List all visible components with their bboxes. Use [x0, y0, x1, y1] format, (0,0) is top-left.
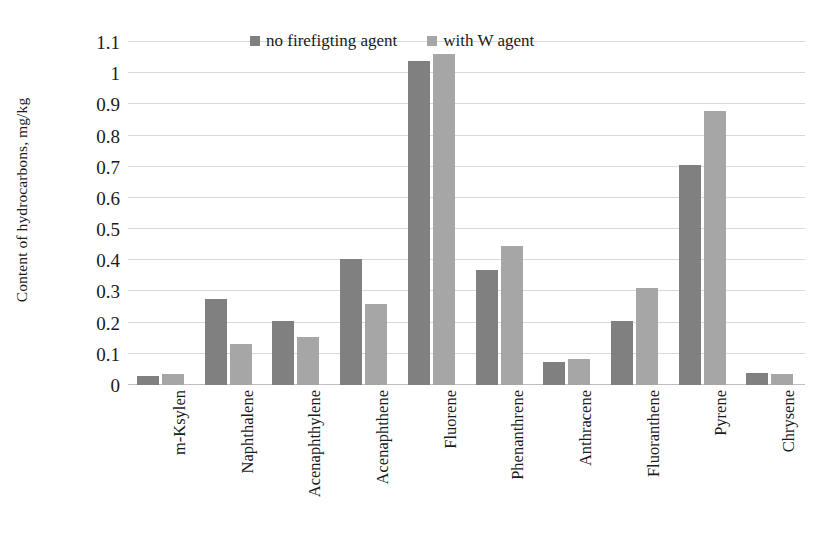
legend-swatch-icon: [427, 36, 437, 46]
y-axis-tick-label: 0.2: [58, 313, 120, 332]
y-axis-tick-label: 0.4: [58, 251, 120, 270]
x-axis-category-label: Acenaphthylene: [305, 390, 325, 550]
gridline: [128, 135, 805, 136]
y-axis-tick-label: 0.3: [58, 282, 120, 301]
y-axis-tick-label: 0.6: [58, 188, 120, 207]
x-axis-category-labels: m-KsylenNaphthaleneAcenaphthyleneAcenaph…: [128, 390, 805, 555]
y-axis-tick-label: 1: [58, 64, 120, 83]
x-axis-category-label: Fluorene: [441, 390, 461, 550]
bar-chart: Content of hydrocarbons, mg/kg 00.10.20.…: [0, 0, 837, 560]
gridline: [128, 290, 805, 291]
gridline: [128, 72, 805, 73]
plot-area: [128, 42, 805, 385]
x-axis-category-label: Chrysene: [779, 390, 799, 550]
legend-item[interactable]: with W agent: [427, 31, 534, 51]
gridline: [128, 166, 805, 167]
gridline: [128, 259, 805, 260]
x-axis-category-label: Anthracene: [576, 390, 596, 550]
x-axis-category-label: Acenaphthene: [373, 390, 393, 550]
x-axis-category-label: m-Ksylen: [170, 390, 190, 550]
y-axis-tick-labels: 00.10.20.30.40.50.60.70.80.911.1: [58, 42, 120, 385]
x-axis-category-label: Pyrene: [711, 390, 731, 550]
gridline: [128, 197, 805, 198]
y-axis-title-label: Content of hydrocarbons, mg/kg: [13, 98, 31, 302]
y-axis-tick-label: 0.7: [58, 157, 120, 176]
y-axis-tick-label: 0.1: [58, 344, 120, 363]
legend-label: no firefigting agent: [266, 31, 397, 51]
y-axis-tick-label: 1.1: [58, 33, 120, 52]
chart-legend: no firefigting agentwith W agent: [250, 31, 534, 51]
x-axis-category-label: Phenanthrene: [508, 390, 528, 550]
y-axis-title: Content of hydrocarbons, mg/kg: [0, 0, 44, 400]
legend-label: with W agent: [443, 31, 534, 51]
legend-swatch-icon: [250, 36, 260, 46]
x-axis-line: [128, 384, 805, 385]
y-axis-tick-label: 0.5: [58, 220, 120, 239]
y-axis-tick-label: 0.8: [58, 126, 120, 145]
y-axis-tick-label: 0: [58, 376, 120, 395]
gridline: [128, 322, 805, 323]
y-axis-tick-label: 0.9: [58, 95, 120, 114]
gridline: [128, 228, 805, 229]
gridline: [128, 103, 805, 104]
x-axis-category-label: Naphthalene: [238, 390, 258, 550]
legend-item[interactable]: no firefigting agent: [250, 31, 397, 51]
x-axis-category-label: Fluoranthene: [644, 390, 664, 550]
gridline: [128, 353, 805, 354]
